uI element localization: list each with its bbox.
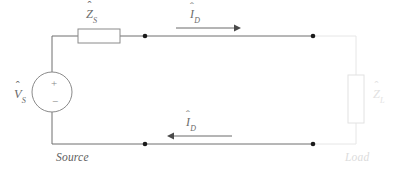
node-dot-top-left bbox=[143, 34, 148, 39]
source-voltage-label: ˆVS bbox=[14, 88, 26, 104]
current-bottom-subscript: D bbox=[190, 124, 196, 133]
hat-accent-id-bottom: ˆ bbox=[186, 109, 190, 120]
current-top-subscript: D bbox=[194, 16, 200, 25]
hat-accent-zs: ˆ bbox=[87, 1, 91, 13]
source-impedance-label: ˆZS bbox=[86, 8, 97, 24]
node-dot-bottom-right bbox=[311, 142, 316, 147]
current-arrow-bottom bbox=[167, 133, 232, 140]
load-impedance-box bbox=[348, 75, 364, 123]
current-label-bottom: ˆID bbox=[186, 116, 196, 131]
hat-accent-id-top: ˆ bbox=[190, 1, 194, 12]
polarity-minus-sign: − bbox=[52, 96, 58, 107]
source-impedance-subscript: S bbox=[93, 16, 97, 25]
source-voltage-subscript: S bbox=[22, 96, 26, 105]
node-dot-bottom-left bbox=[143, 142, 148, 147]
circuit-diagram: ˆZS ˆVS ˆZL ˆID ˆID Source Load + − bbox=[0, 0, 400, 175]
load-caption: Load bbox=[345, 152, 369, 164]
load-impedance-subscript: L bbox=[380, 96, 385, 105]
polarity-plus-sign: + bbox=[51, 78, 57, 89]
hat-accent-vs: ˆ bbox=[16, 81, 20, 93]
hat-accent-zl: ˆ bbox=[374, 81, 378, 93]
source-caption: Source bbox=[56, 152, 89, 164]
source-impedance-box bbox=[78, 29, 120, 43]
node-dot-top-right bbox=[311, 34, 316, 39]
current-label-top: ˆID bbox=[190, 8, 200, 23]
load-impedance-label: ˆZL bbox=[373, 88, 385, 104]
current-arrow-top bbox=[176, 25, 241, 32]
circuit-canvas bbox=[0, 0, 400, 175]
